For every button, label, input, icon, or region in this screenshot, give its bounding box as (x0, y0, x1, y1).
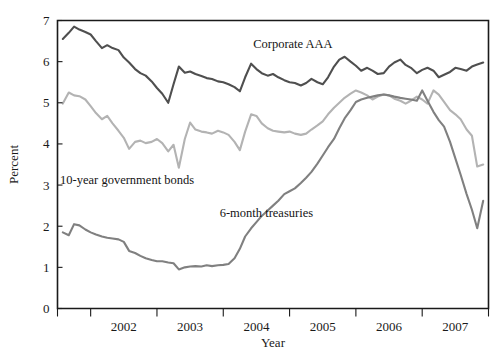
y-tick-label-4: 4 (43, 136, 50, 151)
y-tick-label-2: 2 (43, 219, 50, 234)
y-tick-label-3: 3 (43, 178, 50, 193)
y-axis-title: Percent (6, 145, 21, 184)
annotation-corporate-aaa: Corporate AAA (253, 37, 333, 51)
annotation-6-month-treasuries: 6-month treasuries (220, 206, 314, 220)
y-tick-label-1: 1 (43, 260, 50, 275)
interest-rates-line-chart: 01234567200220032004200520062007 Corpora… (0, 0, 503, 349)
y-tick-label-0: 0 (43, 301, 50, 316)
x-axis-title: Year (261, 335, 286, 349)
x-tick-label-2005: 2005 (310, 319, 336, 334)
y-tick-label-7: 7 (43, 13, 50, 28)
annotation-10-year-government-bonds: 10-year government bonds (60, 173, 194, 187)
chart-figure: 01234567200220032004200520062007 Corpora… (0, 0, 503, 349)
x-tick-label-2007: 2007 (442, 319, 469, 334)
x-tick-label-2006: 2006 (376, 319, 403, 334)
y-tick-label-5: 5 (43, 95, 50, 110)
x-tick-label-2004: 2004 (243, 319, 270, 334)
x-tick-label-2003: 2003 (177, 319, 203, 334)
y-tick-label-6: 6 (43, 54, 50, 69)
x-tick-label-2002: 2002 (111, 319, 137, 334)
